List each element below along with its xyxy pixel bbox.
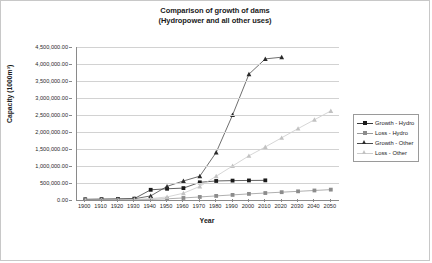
legend-item-growth-hydro[interactable]: Growth - Hydro — [357, 118, 414, 128]
data-point-marker — [197, 184, 202, 188]
legend-swatch — [357, 139, 373, 147]
gridline — [77, 149, 339, 150]
x-axis-tick-mark — [150, 199, 151, 202]
x-axis-tick-mark — [281, 199, 282, 202]
x-axis-tick-mark — [313, 199, 314, 202]
x-axis-tick-mark — [248, 199, 249, 202]
legend-triangle-icon — [362, 150, 366, 154]
x-axis-tick-mark — [297, 199, 298, 202]
legend-triangle-icon — [362, 140, 366, 144]
x-axis-tick-label: 2000 — [242, 203, 254, 209]
x-axis-tick-label: 2030 — [291, 203, 303, 209]
data-point-marker — [263, 178, 267, 182]
x-axis-tick-mark — [215, 199, 216, 202]
legend-swatch — [357, 149, 373, 157]
series-line — [85, 190, 331, 200]
data-point-marker — [328, 109, 333, 113]
y-axis-tick-mark — [69, 183, 72, 184]
gridline — [77, 132, 339, 133]
x-axis-tick-label: 1940 — [143, 203, 155, 209]
x-axis-tick-label: 2040 — [307, 203, 319, 209]
x-axis-tick-labels: 1900191019201930194019501960197019801990… — [76, 203, 338, 215]
x-axis-title: Year — [76, 217, 338, 224]
y-axis-tick-mark — [69, 166, 72, 167]
y-axis-tick-label: 3,000,000.00 — [35, 95, 68, 101]
x-axis-tick-label: 2010 — [258, 203, 270, 209]
legend-item-loss-hydro[interactable]: Loss - Hydro — [357, 128, 414, 138]
data-point-marker — [296, 126, 301, 130]
chart-legend: Growth - HydroLoss - HydroGrowth - Other… — [353, 114, 419, 162]
series-line — [85, 111, 331, 200]
y-axis-tick-mark — [69, 47, 72, 48]
y-axis-tick-label: 4,000,000.00 — [35, 61, 68, 67]
y-axis-tick-mark — [69, 132, 72, 133]
legend-item-label: Growth - Other — [375, 140, 413, 146]
legend-item-growth-other[interactable]: Growth - Other — [357, 138, 414, 148]
legend-item-label: Loss - Hydro — [375, 130, 408, 136]
x-axis-tick-mark — [264, 199, 265, 202]
chart-title-line-1: Comparison of growth of dams — [1, 6, 429, 16]
data-point-marker — [280, 190, 284, 194]
legend-item-label: Loss - Other — [375, 150, 407, 156]
legend-square-icon — [363, 121, 367, 125]
x-axis-tick-mark — [84, 199, 85, 202]
y-axis-tick-label: 1,000,000.00 — [35, 163, 68, 169]
y-axis-tick-mark — [69, 98, 72, 99]
y-axis-tick-mark — [69, 149, 72, 150]
y-axis-tick-label: 4,500,000.00 — [35, 44, 68, 50]
data-point-marker — [231, 179, 235, 183]
data-point-marker — [329, 188, 333, 192]
x-axis-tick-label: 1900 — [78, 203, 90, 209]
x-axis-tick-label: 1950 — [160, 203, 172, 209]
x-axis-tick-label: 1920 — [111, 203, 123, 209]
x-axis-tick-label: 1980 — [209, 203, 221, 209]
y-axis-tick-label: 2,500,000.00 — [35, 112, 68, 118]
legend-swatch — [357, 119, 373, 127]
data-point-marker — [149, 188, 153, 192]
data-point-marker — [182, 186, 186, 190]
data-point-marker — [313, 189, 317, 193]
x-axis-tick-label: 2020 — [274, 203, 286, 209]
x-axis-tick-label: 1910 — [94, 203, 106, 209]
plot-area — [76, 47, 339, 201]
data-point-marker — [279, 135, 284, 139]
x-axis-tick-mark — [182, 199, 183, 202]
data-point-marker — [231, 193, 235, 197]
chart-title-line-2: (Hydropower and all other uses) — [1, 16, 429, 26]
gridline — [77, 81, 339, 82]
x-axis-tick-label: 1970 — [193, 203, 205, 209]
y-axis-tick-labels: 0.00500,000.001,000,000.001,500,000.002,… — [1, 41, 73, 206]
y-axis-tick-label: 1,500,000.00 — [35, 146, 68, 152]
x-axis-tick-label: 2050 — [324, 203, 336, 209]
data-point-marker — [247, 153, 252, 157]
data-point-marker — [214, 194, 218, 198]
x-axis-tick-label: 1960 — [176, 203, 188, 209]
x-axis-tick-mark — [199, 199, 200, 202]
x-axis-tick-label: 1990 — [225, 203, 237, 209]
x-axis-tick-mark — [133, 199, 134, 202]
series-line — [85, 57, 282, 199]
data-point-marker — [247, 179, 251, 183]
data-point-marker — [181, 191, 186, 195]
x-axis-tick-label: 1930 — [127, 203, 139, 209]
data-point-marker — [296, 189, 300, 193]
y-axis-tick-mark — [69, 81, 72, 82]
data-point-marker — [312, 117, 317, 121]
gridline — [77, 115, 339, 116]
data-point-marker — [214, 150, 219, 154]
data-point-marker — [247, 192, 251, 196]
y-axis-tick-label: 3,500,000.00 — [35, 78, 68, 84]
y-axis-tick-mark — [69, 115, 72, 116]
gridline — [77, 47, 339, 48]
legend-swatch — [357, 129, 373, 137]
legend-item-label: Growth - Hydro — [375, 120, 414, 126]
legend-item-loss-other[interactable]: Loss - Other — [357, 148, 414, 158]
x-axis-tick-mark — [166, 199, 167, 202]
legend-square-icon — [363, 131, 367, 135]
series-lines — [77, 47, 339, 200]
y-axis-tick-mark — [69, 200, 72, 201]
chart-title: Comparison of growth of dams (Hydropower… — [1, 6, 429, 25]
data-point-marker — [263, 191, 267, 195]
y-axis-tick-mark — [69, 64, 72, 65]
gridline — [77, 183, 339, 184]
